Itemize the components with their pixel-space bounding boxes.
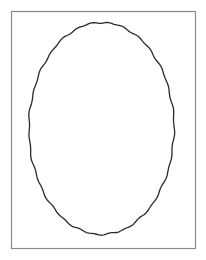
hand-drawn-ellipse <box>29 22 175 235</box>
ellipse-drawing <box>0 0 206 260</box>
frame-border <box>12 12 196 249</box>
figure-canvas <box>0 0 206 260</box>
